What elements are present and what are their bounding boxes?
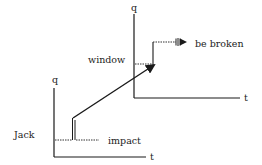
left-t-label: t (150, 151, 154, 162)
transition-arrow (73, 65, 154, 118)
right-axes: q t (131, 2, 248, 103)
left-q-label: q (52, 74, 58, 85)
feathered-arrowhead-icon (176, 38, 187, 46)
right-t-label: t (244, 92, 248, 103)
impact-label: impact (108, 135, 141, 146)
window-state (135, 38, 187, 65)
window-label: window (88, 54, 125, 65)
left-axes: q t (52, 74, 154, 162)
diagram-canvas: q t q t Jack impact window be broken (0, 0, 262, 165)
jack-label: Jack (13, 129, 35, 140)
jack-state (55, 118, 99, 140)
be-broken-label: be broken (195, 38, 244, 49)
right-q-label: q (131, 2, 137, 13)
